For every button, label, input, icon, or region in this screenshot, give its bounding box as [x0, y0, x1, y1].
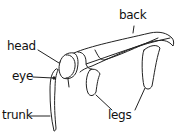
label-legs: legs: [108, 109, 131, 121]
label-head: head: [7, 40, 36, 52]
label-back: back: [119, 9, 146, 21]
label-trunk: trunk: [2, 109, 32, 121]
rear-leg: [142, 46, 160, 89]
label-eye: eye: [12, 70, 33, 82]
front-leg: [86, 69, 100, 95]
